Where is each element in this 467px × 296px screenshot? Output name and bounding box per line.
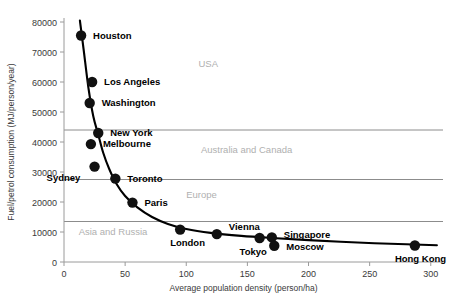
data-point (410, 240, 420, 250)
data-point (89, 161, 99, 171)
y-tick-label: 40000 (32, 138, 57, 148)
data-point-label: New York (110, 127, 153, 138)
data-point-label: Vienna (229, 221, 261, 232)
data-point (86, 139, 96, 149)
data-point (212, 229, 222, 239)
x-tick-label: 50 (120, 269, 130, 279)
x-tick-label: 150 (240, 269, 255, 279)
data-point (127, 197, 137, 207)
data-point-label: Paris (144, 197, 167, 208)
y-tick-label: 60000 (32, 78, 57, 88)
data-point-label: London (170, 237, 205, 248)
x-axis-ticks: 050100150200250300 (61, 262, 438, 279)
x-tick-label: 200 (301, 269, 316, 279)
data-point-label: Singapore (284, 229, 330, 240)
x-tick-label: 300 (423, 269, 438, 279)
region-label: Europe (186, 189, 217, 200)
data-point-label: Melbourne (103, 138, 151, 149)
x-tick-label: 100 (179, 269, 194, 279)
data-point-label: Sydney (47, 172, 82, 183)
data-point (76, 30, 86, 40)
data-point-label: Tokyo (240, 246, 267, 257)
chart-canvas: 0100002000030000400005000060000700008000… (0, 0, 467, 296)
data-point-label: Washington (102, 97, 156, 108)
data-point-label: Los Angeles (104, 76, 160, 87)
y-axis-ticks: 0100002000030000400005000060000700008000… (32, 18, 64, 268)
data-point-label: Houston (93, 30, 132, 41)
x-axis-title: Average population density (person/ha) (169, 283, 317, 293)
y-tick-label: 10000 (32, 228, 57, 238)
x-tick-label: 0 (61, 269, 66, 279)
data-point (269, 241, 279, 251)
region-label: Australia and Canada (201, 144, 293, 155)
y-tick-label: 0 (52, 258, 57, 268)
region-label: USA (198, 58, 218, 69)
data-point-label: Hong Kong (395, 253, 446, 264)
scatter-chart: 0100002000030000400005000060000700008000… (0, 0, 467, 296)
data-point (87, 77, 97, 87)
data-point (254, 233, 264, 243)
data-point-label: Moscow (286, 241, 324, 252)
y-tick-label: 80000 (32, 18, 57, 28)
data-point-label: Toronto (127, 173, 162, 184)
data-point (84, 98, 94, 108)
y-axis-title: Fuel/petrol consumption (MJ/person/year) (6, 63, 16, 220)
region-label: Asia and Russia (79, 226, 148, 237)
y-tick-label: 50000 (32, 108, 57, 118)
data-point (175, 224, 185, 234)
y-tick-label: 20000 (32, 198, 57, 208)
x-tick-label: 250 (362, 269, 377, 279)
data-point (93, 128, 103, 138)
y-tick-label: 70000 (32, 48, 57, 58)
data-point (110, 173, 120, 183)
